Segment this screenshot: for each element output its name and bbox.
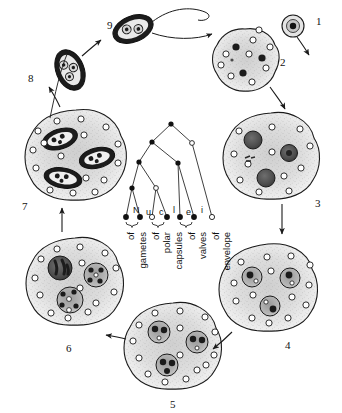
tree-label-of-4: of (211, 232, 221, 240)
tree-braces (126, 222, 192, 228)
tree-label-gametes: gametes (138, 232, 148, 268)
arrow-2-to-3 (270, 87, 285, 109)
tree-label-of-2: of (151, 232, 161, 240)
tree-letter-u: u (146, 208, 151, 217)
tree-branches (126, 124, 212, 217)
arrow-1-to-2 (297, 37, 309, 55)
stage-label-1: 1 (316, 16, 322, 27)
stage-label-5: 5 (170, 399, 176, 410)
stage-label-8: 8 (28, 73, 34, 84)
stage-3-cell (223, 112, 320, 199)
tree-letter-i: i (201, 206, 203, 215)
arrow-5-to-6 (106, 335, 126, 339)
tree-letter-e: e (186, 208, 191, 217)
stage-label-7: 7 (22, 201, 28, 212)
stage-label-2: 2 (280, 57, 286, 68)
stage-5-cell (124, 302, 222, 389)
tree-label-polar: polar (162, 232, 172, 253)
stage-1-cell (282, 15, 304, 37)
life-cycle-figure: N u c l e i of gametes of polar capsules… (0, 0, 342, 413)
stage-6-cell (26, 237, 124, 325)
stage-label-9: 9 (107, 20, 113, 31)
stage-8-spore (49, 45, 91, 94)
brace-valves (180, 222, 192, 228)
tree-label-envelope: envelope (222, 232, 232, 271)
figure-canvas (0, 0, 342, 413)
stage-9-spore (109, 9, 212, 49)
stage-label-6: 6 (66, 343, 72, 354)
stage-label-4: 4 (285, 340, 291, 351)
stage-label-3: 3 (315, 198, 321, 209)
tree-label-valves: valves (198, 232, 208, 259)
stage-7-cell (25, 109, 126, 200)
brace-gametes (126, 222, 138, 228)
tree-label-of-1: of (126, 232, 136, 240)
brace-polar-capsules (152, 222, 164, 228)
stage-4-cell (219, 244, 318, 331)
tree-letter-l: l (173, 206, 175, 215)
tree-letter-N: N (133, 206, 140, 215)
stage-2-cell (213, 27, 280, 91)
arrow-8-to-9 (82, 40, 101, 56)
tree-label-of-3: of (187, 232, 197, 240)
tree-label-capsules: capsules (174, 232, 184, 270)
tree-letter-c: c (159, 208, 164, 217)
